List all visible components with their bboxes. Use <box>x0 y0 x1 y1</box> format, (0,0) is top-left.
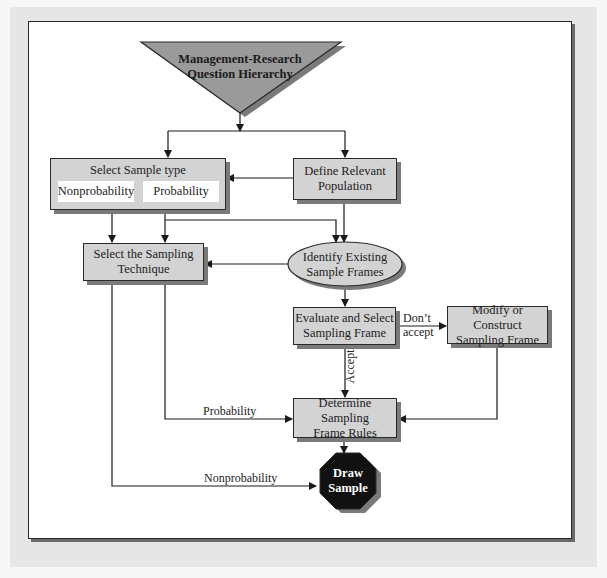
draw-sample-line2: Sample <box>320 481 376 496</box>
select-technique-box: Select the Sampling Technique <box>83 243 204 281</box>
evaluate-frame-line1: Evaluate and Select <box>295 311 394 326</box>
determine-rules-box: Determine Sampling Frame Rules <box>293 398 397 438</box>
evaluate-frame-line2: Sampling Frame <box>295 326 394 341</box>
identify-frames-line2: Sample Frames <box>293 265 397 280</box>
option-nonprobability: Nonprobability <box>58 181 134 202</box>
dont-accept-line1: Don’t <box>403 311 434 325</box>
draw-sample-label: Draw Sample <box>320 466 376 496</box>
option-probability-label: Probability <box>153 184 209 199</box>
modify-frame-line1: Modify or Construct <box>448 303 547 333</box>
determine-rules-line2: Frame Rules <box>294 426 396 441</box>
connectors-layer <box>0 0 607 578</box>
accept-label: Accept <box>343 350 358 384</box>
identify-frames-line1: Identify Existing <box>293 250 397 265</box>
select-sample-type-title: Select Sample type <box>90 163 186 178</box>
top-node-line2: Question Hierarchy <box>170 67 310 82</box>
identify-frames-label: Identify Existing Sample Frames <box>293 250 397 280</box>
nonprobability-edge-label: Nonprobability <box>204 471 277 486</box>
dont-accept-label: Don’t accept <box>403 311 434 339</box>
option-nonprobability-label: Nonprobability <box>58 184 134 199</box>
top-node-line1: Management-Research <box>170 52 310 67</box>
determine-rules-line1: Determine Sampling <box>294 396 396 426</box>
probability-edge-label: Probability <box>203 404 256 419</box>
define-population-box: Define Relevant Population <box>293 158 397 200</box>
draw-sample-line1: Draw <box>320 466 376 481</box>
select-technique-line1: Select the Sampling <box>94 247 194 262</box>
option-probability: Probability <box>143 181 219 202</box>
modify-frame-line2: Sampling Frame <box>448 333 547 348</box>
define-population-line2: Population <box>304 179 386 194</box>
define-population-line1: Define Relevant <box>304 164 386 179</box>
modify-frame-box: Modify or Construct Sampling Frame <box>447 306 548 344</box>
top-node-label: Management-Research Question Hierarchy <box>170 52 310 82</box>
evaluate-frame-box: Evaluate and Select Sampling Frame <box>293 307 396 345</box>
dont-accept-line2: accept <box>403 325 434 339</box>
select-technique-line2: Technique <box>94 262 194 277</box>
